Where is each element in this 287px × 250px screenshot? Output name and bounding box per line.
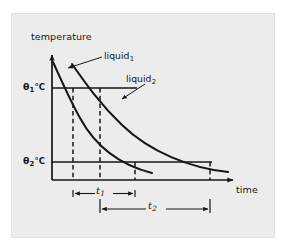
curve-label-liquid2-main: liquid [126, 73, 151, 84]
theta2-unit: °C [34, 156, 45, 166]
curve-label-liquid1-sub: 1 [129, 55, 134, 63]
y-tick-label-theta2: θ2°C [23, 156, 45, 168]
curve-label-liquid2-sub: 2 [151, 78, 156, 86]
t2-subscript: 2 [152, 204, 157, 213]
annotation-label-t2: t2 [148, 201, 157, 212]
x-axis-label: time [236, 185, 258, 195]
curve-label-liquid1: liquid1 [104, 51, 134, 63]
y-axis-label: temperature [31, 32, 92, 42]
theta1-unit: °C [34, 82, 45, 92]
y-tick-label-theta1: θ1°C [23, 82, 45, 94]
annotation-label-t1: t1 [96, 186, 105, 197]
leader-line-liquid2 [122, 84, 145, 99]
cooling-curve-figure: temperature time liquid1 liquid2 θ1°C θ2… [0, 0, 287, 250]
t1-subscript: 1 [100, 189, 105, 198]
curve-label-liquid2: liquid2 [126, 74, 156, 86]
curve-label-liquid1-main: liquid [104, 50, 129, 61]
leader-line-liquid1 [68, 57, 102, 68]
